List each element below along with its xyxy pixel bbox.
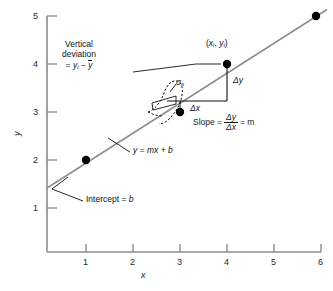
deviation-yhat: y (88, 60, 92, 70)
y-axis-title: y (12, 132, 22, 137)
x-tick-label-5: 5 (271, 257, 276, 267)
x-tick-label-3: 3 (177, 257, 182, 267)
x-axis-ticks (86, 244, 321, 252)
vertical-deviation-line2: deviation (62, 50, 96, 60)
x-tick-label-6: 6 (318, 257, 323, 267)
slope-fraction: Δy Δx (224, 113, 238, 133)
point-coordinate-label: (xi, yi) (206, 39, 228, 49)
y-tick-label-1: 1 (33, 203, 38, 213)
intercept-text: Intercept = (86, 194, 129, 204)
slope-suffix: = m (240, 118, 254, 128)
x-axis-title: x (141, 270, 146, 280)
data-point (176, 108, 184, 116)
y-tick-label-5: 5 (33, 11, 38, 21)
deviation-equals: = (66, 60, 73, 70)
sigma-subscript: s (181, 80, 184, 87)
regression-figure: 5 4 3 2 1 1 2 3 4 5 6 x y Vertical devia… (0, 0, 333, 291)
data-point (223, 60, 231, 68)
intercept-label: Intercept = b (86, 195, 134, 205)
y-axis-ticks (47, 16, 57, 208)
vertical-deviation-annotation: Vertical deviation = yi − y (62, 40, 96, 70)
delta-y-label: Δy (233, 76, 243, 86)
line-equation-leader (108, 138, 130, 152)
vertical-deviation-line3: = yi − y (62, 60, 96, 71)
vertical-deviation-leader (133, 64, 221, 72)
x-tick-label-2: 2 (130, 257, 135, 267)
x-tick-label-1: 1 (83, 257, 88, 267)
slope-prefix: Slope = (193, 118, 222, 128)
intercept-symbol: b (129, 194, 134, 204)
data-points (82, 12, 320, 164)
y-tick-label-3: 3 (33, 107, 38, 117)
deviation-minus: − (79, 60, 89, 70)
sigma-s-label: σs (176, 78, 184, 88)
data-point (312, 12, 320, 20)
y-tick-label-2: 2 (33, 155, 38, 165)
slope-denominator: Δx (224, 123, 238, 132)
data-point (82, 156, 90, 164)
x-tick-label-4: 4 (224, 257, 229, 267)
intercept-leader (52, 177, 83, 201)
paren-close: ) (225, 38, 228, 48)
slope-formula: Slope = Δy Δx = m (193, 113, 254, 133)
line-equation-label: y = mx + b (133, 146, 173, 156)
y-tick-label-4: 4 (33, 59, 38, 69)
